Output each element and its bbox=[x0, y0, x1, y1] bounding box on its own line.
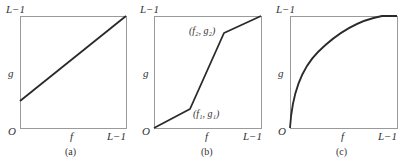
caption-c: (c) bbox=[336, 146, 347, 158]
figure-canvas: L−1 g O f L−1 (a) L−1 g O f L−1 (f₁, g₁)… bbox=[0, 0, 408, 163]
plot-frame bbox=[291, 17, 398, 129]
point-label-f2-g2: (f₂, g₂) bbox=[189, 25, 216, 37]
plot-frame bbox=[21, 17, 127, 129]
panel-c: L−1 g O f L−1 (c) bbox=[275, 3, 398, 158]
panel-b: L−1 g O f L−1 (f₁, g₁) (f₂, g₂) (b) bbox=[139, 3, 262, 158]
origin-label: O bbox=[278, 125, 286, 137]
transfer-curve bbox=[20, 16, 126, 101]
y-max-label: L−1 bbox=[139, 3, 159, 15]
caption-b: (b) bbox=[201, 146, 213, 158]
y-max-label: L−1 bbox=[5, 3, 25, 15]
x-axis-label: f bbox=[70, 130, 75, 142]
x-max-label: L−1 bbox=[377, 130, 397, 142]
panel-a: L−1 g O f L−1 (a) bbox=[5, 3, 127, 158]
x-axis-label: f bbox=[205, 130, 210, 142]
y-axis-label: g bbox=[278, 67, 284, 79]
x-axis-label: f bbox=[341, 130, 346, 142]
x-max-label: L−1 bbox=[106, 130, 126, 142]
origin-label: O bbox=[142, 125, 150, 137]
transfer-curve bbox=[290, 16, 397, 128]
y-axis-label: g bbox=[143, 67, 149, 79]
caption-a: (a) bbox=[65, 146, 76, 158]
y-axis-label: g bbox=[8, 67, 14, 79]
origin-label: O bbox=[8, 125, 16, 137]
y-max-label: L−1 bbox=[275, 3, 295, 15]
point-label-f1-g1: (f₁, g₁) bbox=[193, 108, 220, 120]
x-max-label: L−1 bbox=[242, 130, 262, 142]
